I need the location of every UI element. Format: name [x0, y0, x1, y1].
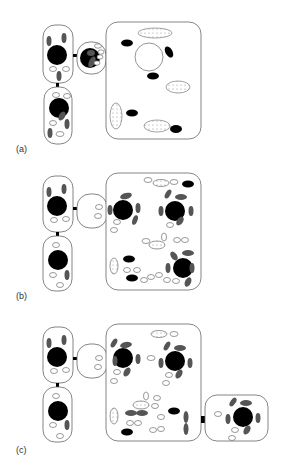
panel-label-a: (a)	[16, 144, 27, 154]
panel-c	[43, 324, 268, 442]
panel-label-b: (b)	[16, 291, 27, 301]
diagram-canvas	[0, 0, 281, 465]
panel-label-c: (c)	[16, 445, 27, 455]
panel-b	[43, 173, 201, 291]
panel-a	[43, 22, 201, 144]
